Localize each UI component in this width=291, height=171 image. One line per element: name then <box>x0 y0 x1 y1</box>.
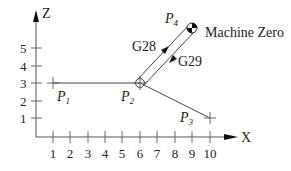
p3-subscript: 3 <box>188 117 194 127</box>
path-p2-p3 <box>140 83 210 118</box>
x-tick-label: 8 <box>172 146 179 161</box>
svg-text:P1: P1 <box>56 89 70 106</box>
svg-text:P4: P4 <box>164 11 179 28</box>
g29-label: G29 <box>178 54 202 69</box>
x-tick-label: 5 <box>119 146 126 161</box>
g28-label: G28 <box>132 39 156 54</box>
x-axis: X <box>36 130 251 145</box>
x-tick-label: 9 <box>189 146 196 161</box>
z-tick-label: 4 <box>20 59 27 74</box>
p1-label: P <box>56 89 66 104</box>
z-axis-arrow-icon <box>33 10 39 22</box>
x-tick-label: 7 <box>154 146 161 161</box>
x-axis-label: X <box>241 130 251 145</box>
p4-label: P <box>164 11 174 26</box>
machine-zero-label: Machine Zero <box>205 25 284 40</box>
p2-label: P <box>120 89 130 104</box>
z-axis-ticks: 1 2 3 4 5 <box>20 41 42 126</box>
x-axis-ticks: 1 2 3 4 5 6 7 8 9 10 <box>50 131 217 161</box>
z-axis: Z <box>33 6 51 137</box>
p4-subscript: 4 <box>174 18 179 28</box>
x-tick-label: 1 <box>50 146 57 161</box>
point-p2: P2 <box>120 76 147 106</box>
x-axis-arrow-icon <box>224 134 238 140</box>
p2-subscript: 2 <box>130 96 135 106</box>
reference-return-diagram: Z X 1 2 3 4 5 1 2 3 4 5 6 7 8 <box>0 0 291 171</box>
point-p3: P3 <box>179 110 216 127</box>
z-tick-label: 2 <box>20 94 27 109</box>
svg-text:P2: P2 <box>120 89 135 106</box>
z-tick-label: 3 <box>20 76 27 91</box>
p1-subscript: 1 <box>66 96 71 106</box>
x-tick-label: 10 <box>204 146 217 161</box>
svg-text:P3: P3 <box>179 110 194 127</box>
x-tick-label: 2 <box>67 146 74 161</box>
z-tick-label: 1 <box>20 111 27 126</box>
x-tick-label: 3 <box>85 146 92 161</box>
z-axis-label: Z <box>42 6 51 21</box>
z-tick-label: 5 <box>20 41 27 56</box>
point-p4-machine-zero: P4 Machine Zero <box>164 11 284 40</box>
point-p1: P1 <box>47 77 70 106</box>
x-tick-label: 6 <box>137 146 144 161</box>
p3-label: P <box>179 110 189 125</box>
x-tick-label: 4 <box>102 146 109 161</box>
g29-arrow-icon <box>169 55 177 63</box>
